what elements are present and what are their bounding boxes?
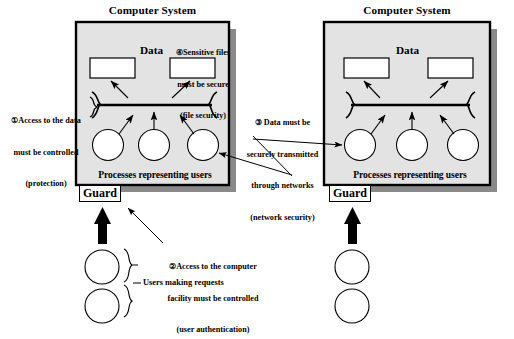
external-user-right-2[interactable] xyxy=(335,289,369,323)
processes-label-right: Processes representing users xyxy=(340,170,480,180)
annotation-4-line-3: (file security) xyxy=(167,111,239,122)
annotation-4: ④Sensitive files must be secure (file se… xyxy=(167,27,239,143)
data-label-left: Data xyxy=(140,44,163,56)
annotation-2-line-1: ②Access to the computer xyxy=(158,262,268,273)
users-brace-lower xyxy=(124,285,132,317)
file-box-right-1[interactable] xyxy=(344,58,389,78)
external-user-right-1[interactable] xyxy=(335,250,369,284)
guard-label-right: Guard xyxy=(333,186,367,201)
processes-label-left: Processes representing users xyxy=(85,170,225,180)
external-user-left-2[interactable] xyxy=(85,289,119,323)
process-left-1[interactable] xyxy=(93,130,124,161)
data-label-right: Data xyxy=(396,44,419,56)
annotation-2: ②Access to the computer facility must be… xyxy=(158,241,268,339)
guard-arrow-right xyxy=(344,207,361,244)
annotation-1-line-2: must be controlled xyxy=(2,148,90,159)
annotation-1: ①Access to the data must be controlled (… xyxy=(2,95,90,211)
file-box-left-1[interactable] xyxy=(90,58,135,78)
annotation-4-line-1: ④Sensitive files xyxy=(167,48,239,59)
process-right-3[interactable] xyxy=(448,130,479,161)
process-left-2[interactable] xyxy=(139,130,170,161)
external-user-left-1[interactable] xyxy=(85,250,119,284)
process-right-1[interactable] xyxy=(345,130,376,161)
diagram-canvas: Computer System Computer System Data Dat… xyxy=(0,0,514,339)
annotation-3: ③ Data must be securely transmitted thro… xyxy=(243,97,322,244)
file-box-right-2[interactable] xyxy=(428,58,473,78)
process-right-2[interactable] xyxy=(397,130,428,161)
annotation-3-line-1: ③ Data must be xyxy=(243,118,322,129)
annotation-3-line-2: securely transmitted xyxy=(243,150,322,161)
annotation-2-line-3: (user authentication) xyxy=(158,325,268,336)
guard-arrow-left xyxy=(94,207,111,244)
users-making-requests-label: Users making requests xyxy=(143,278,224,287)
annotation-1-line-3: (protection) xyxy=(2,179,90,190)
annotation-1-line-1: ①Access to the data xyxy=(2,116,90,127)
annotation-2-line-2: facility must be controlled xyxy=(158,294,268,305)
system-left-title: Computer System xyxy=(76,4,229,16)
guard-box-right[interactable]: Guard xyxy=(329,185,371,202)
annotation-4-line-2: must be secure xyxy=(167,80,239,91)
system-right-title: Computer System xyxy=(324,4,490,16)
users-brace xyxy=(124,249,138,282)
annotation-3-line-4: (network security) xyxy=(243,213,322,224)
annotation-2-leader xyxy=(128,208,163,243)
annotation-3-line-3: through networks xyxy=(243,181,322,192)
